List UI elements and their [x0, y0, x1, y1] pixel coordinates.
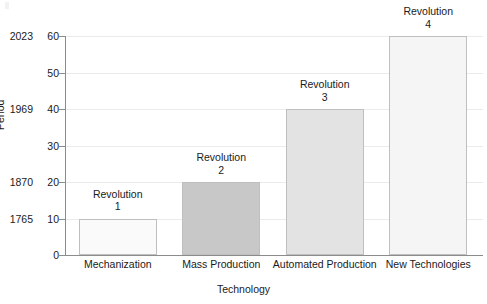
bar-label-line1: Revolution — [368, 5, 487, 18]
bar-label-line2: 1 — [58, 200, 178, 213]
bar-value-label: Revolution3 — [265, 78, 385, 103]
x-category-label: New Technologies — [358, 259, 487, 270]
bar-chart: 60202350401969302018701017650 Period Tec… — [0, 0, 487, 304]
x-axis-line — [58, 255, 483, 256]
corner-artifact — [5, 2, 9, 9]
y-tick-label: 20 — [33, 177, 59, 188]
y-tick-label: 40 — [33, 104, 59, 115]
bar-value-label: Revolution4 — [368, 5, 487, 30]
bar-value-label: Revolution2 — [161, 151, 281, 176]
y-tick-label: 60 — [33, 31, 59, 42]
bar[interactable] — [79, 219, 157, 256]
bar[interactable] — [286, 109, 364, 255]
bar-label-line2: 4 — [368, 18, 487, 31]
bar-label-line1: Revolution — [58, 188, 178, 201]
bar-label-line2: 3 — [265, 91, 385, 104]
y-tick-year-label: 1765 — [1, 214, 33, 225]
plot-area — [66, 36, 480, 255]
bar-value-label: Revolution1 — [58, 188, 178, 213]
bar-label-line2: 2 — [161, 164, 281, 177]
y-tick-year-label: 1870 — [1, 177, 33, 188]
bar-label-line1: Revolution — [265, 78, 385, 91]
y-tick-year-label: 2023 — [1, 31, 33, 42]
y-axis-title: Period — [0, 100, 6, 130]
y-tick-label: 30 — [33, 141, 59, 152]
y-tick-label: 10 — [33, 214, 59, 225]
bar[interactable] — [389, 36, 467, 255]
y-tick-label: 50 — [33, 68, 59, 79]
x-axis-title: Technology — [0, 283, 487, 295]
bar-label-line1: Revolution — [161, 151, 281, 164]
bar[interactable] — [182, 182, 260, 255]
